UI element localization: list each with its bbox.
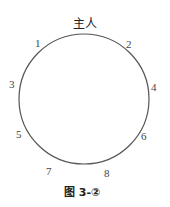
figure-caption: 图 3-② [64,187,100,198]
seat-label-4: 4 [151,82,157,93]
seat-label-3: 3 [9,79,15,90]
host-label: 主人 [73,18,97,30]
seat-label-1: 1 [35,38,41,49]
seating-circle [19,34,149,164]
seat-label-7: 7 [46,166,52,177]
seat-label-5: 5 [16,129,22,140]
seat-label-6: 6 [141,131,147,142]
seat-label-2: 2 [126,39,132,50]
seat-label-8: 8 [104,168,110,179]
seating-circle-svg [0,0,170,207]
